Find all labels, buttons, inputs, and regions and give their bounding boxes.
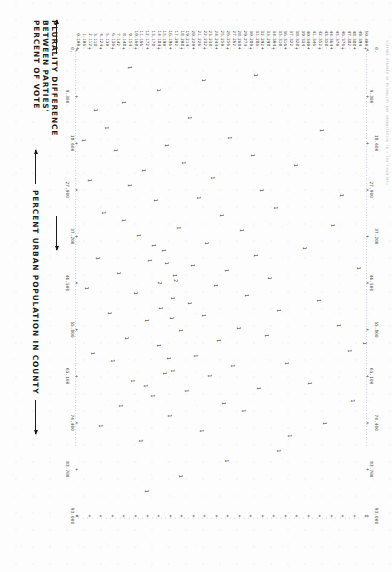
- x-tick-mark: +: [74, 328, 79, 331]
- y-axis-tick-label: 26.256: [226, 31, 230, 46]
- y-axis-tick-label: 47.382: [347, 31, 351, 46]
- x-tick-mark: +: [74, 468, 79, 471]
- report-header-text: SCATTER DIAGRAM OF PLURALITY AND URBANIZ…: [385, 40, 389, 185]
- data-point-marker: 1: [201, 79, 206, 82]
- data-point-marker: 1: [198, 429, 203, 432]
- y-axis-tick-label: 3.118: [93, 33, 97, 46]
- data-point-marker: 1: [178, 474, 183, 477]
- data-point-marker: 1: [89, 352, 94, 355]
- y-axis-tick-label: 45.370: [335, 31, 339, 46]
- data-point-marker: 1: [350, 399, 355, 402]
- data-point-marker: 1: [207, 374, 212, 377]
- y-tick-mark: +: [352, 47, 357, 50]
- x-tick-mark: +: [74, 188, 79, 191]
- y-axis-tick-label: 15.190: [162, 31, 166, 46]
- y-tick-mark: +: [214, 514, 219, 517]
- data-point-marker: 1: [255, 387, 260, 390]
- data-point-marker: 1: [144, 319, 149, 322]
- data-point-marker: 1: [92, 109, 97, 112]
- data-point-marker: 1: [218, 214, 223, 217]
- y-tick-mark: +: [87, 47, 92, 50]
- data-point-marker: 1: [264, 334, 269, 337]
- x-axis-tick-label: 27.900: [65, 182, 69, 198]
- y-axis-tick-label: 21.226: [197, 31, 201, 46]
- x-axis-arrow-right: [35, 400, 36, 434]
- y-tick-mark: +: [317, 514, 322, 517]
- y-axis-tick-label: 43.358: [324, 31, 328, 46]
- y-axis-tick-label: 32.292: [260, 31, 264, 46]
- data-point-marker: 2: [172, 279, 177, 282]
- data-point-marker: 1: [109, 359, 114, 362]
- data-point-marker: 1: [230, 364, 235, 367]
- data-point-marker: 1: [209, 176, 214, 179]
- y-axis-tick-label: 18.208: [180, 31, 184, 46]
- x-axis-tick-label: 55.800: [374, 321, 378, 337]
- data-point-marker: 1: [258, 189, 263, 192]
- y-axis-tick-label: 11.166: [139, 31, 143, 46]
- y-axis-tick-label: 14.184: [157, 31, 161, 46]
- data-point-marker: 1: [115, 271, 120, 274]
- y-tick-mark: +: [168, 47, 173, 50]
- data-point-marker: 1: [355, 266, 360, 269]
- data-point-marker: 1: [204, 241, 209, 244]
- y-tick-mark: +: [283, 514, 288, 517]
- y-tick-mark: +: [248, 47, 253, 50]
- y-axis-tick-label: 48.388: [352, 31, 356, 46]
- data-point-marker: 1: [161, 249, 166, 252]
- y-tick-mark: +: [168, 514, 173, 517]
- data-point-marker: 1: [158, 307, 163, 310]
- y-axis-tick-label: 1.106: [82, 33, 86, 46]
- x-tick-mark: +: [74, 142, 79, 145]
- data-point-marker: 1: [224, 269, 229, 272]
- data-point-marker: 1: [155, 344, 160, 347]
- y-tick-mark: +: [110, 514, 115, 517]
- data-point-marker: 1: [143, 384, 148, 387]
- x-tick-mark: +: [365, 328, 370, 331]
- scatter-plot-area: ........................................…: [78, 50, 366, 516]
- data-point-marker: 1: [178, 329, 183, 332]
- y-axis-tick-label: 30.280: [249, 31, 253, 46]
- y-axis-tick-label: 5.130: [105, 33, 109, 46]
- y-tick-mark: +: [329, 47, 334, 50]
- data-point-marker: 1: [187, 116, 192, 119]
- x-tick-mark: +: [365, 282, 370, 285]
- y-tick-mark: +: [202, 514, 207, 517]
- data-point-marker: 1: [272, 206, 277, 209]
- data-point-marker: 1: [338, 194, 343, 197]
- data-point-marker: 1: [95, 256, 100, 259]
- y-axis-tick-label: 2.112: [87, 33, 91, 46]
- y-tick-mark: +: [179, 47, 184, 50]
- data-point-marker: 1: [307, 382, 312, 385]
- data-point-marker: 1: [189, 264, 194, 267]
- y-tick-mark: +: [352, 514, 357, 517]
- y-axis-tick-label: 44.364: [329, 31, 333, 46]
- data-point-marker: 1: [81, 139, 86, 142]
- y-axis-tick-label: 39.334: [301, 31, 305, 46]
- y-tick-mark: +: [179, 514, 184, 517]
- printout-sheet: SCATTER DIAGRAM OF PLURALITY AND URBANIZ…: [0, 0, 392, 572]
- x-tick-mark: +: [365, 468, 370, 471]
- data-point-marker: 1: [170, 297, 175, 300]
- data-point-marker: 1: [112, 149, 117, 152]
- data-point-marker: 1: [126, 66, 131, 69]
- y-tick-mark: +: [87, 514, 92, 517]
- data-point-marker: 1: [126, 184, 131, 187]
- data-point-marker: 1: [267, 276, 272, 279]
- y-tick-mark: +: [340, 514, 345, 517]
- y-tick-mark: +: [75, 514, 80, 517]
- y-axis-tick-label: 23.238: [208, 31, 212, 46]
- y-axis-tick-label: 42.352: [318, 31, 322, 46]
- y-axis-tick-label: 12.172: [145, 31, 149, 46]
- x-tick-mark: +: [74, 282, 79, 285]
- y-axis-tick-label: 6.136: [111, 33, 115, 46]
- data-point-marker: 1: [361, 342, 366, 345]
- data-point-marker: 1: [275, 309, 280, 312]
- y-tick-mark: +: [248, 514, 253, 517]
- y-axis-tick-label: 27.262: [231, 31, 235, 46]
- data-point-marker: 1: [169, 317, 174, 320]
- y-tick-mark: +: [363, 47, 368, 50]
- data-point-marker: 1: [135, 234, 140, 237]
- rotated-page-frame: SCATTER DIAGRAM OF PLURALITY AND URBANIZ…: [0, 0, 392, 572]
- y-tick-mark: +: [145, 514, 150, 517]
- y-axis-label-strip: 50.40049.39448.38847.38246.37645.37044.3…: [78, 6, 366, 48]
